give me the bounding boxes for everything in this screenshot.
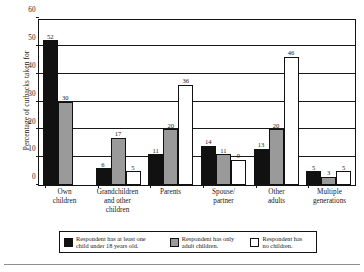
bar[interactable]: 36 [178,85,193,185]
legend-label: Respondent has only adult children. [182,235,234,250]
bar-group: 132046 [250,20,303,185]
legend-item[interactable]: Respondent has only adult children. [170,235,251,250]
bar-group: 112036 [144,20,197,185]
x-axis-label: Own children [38,188,91,214]
y-tick-label: 30 [28,91,35,98]
bottom-rule [4,264,360,265]
y-tick-label: 0 [32,175,36,182]
bar-slot: 36 [178,20,193,185]
gray-swatch [170,238,179,247]
bar-slot: 46 [284,20,299,185]
y-tick-label: 40 [28,63,35,70]
x-axis-label: Grandchildren and other children [91,188,144,214]
bar[interactable]: 6 [96,168,111,185]
bar-slot: 3 [321,20,336,185]
bar-value-label: 30 [62,95,69,102]
bar[interactable]: 5 [336,171,351,185]
bar[interactable]: 5 [306,171,321,185]
plot-area: 0102030405060 52306175112036141191320465… [38,19,356,186]
bar[interactable]: 5 [126,171,141,185]
bars-layer: 5230617511203614119132046535 [39,20,355,185]
bar-group: 14119 [197,20,250,185]
bar-value-label: 5 [342,165,345,172]
bar-slot: 13 [254,20,269,185]
bar[interactable]: 52 [43,40,58,185]
bar[interactable]: 20 [269,129,284,185]
x-axis-label: Parents [144,188,197,214]
legend-item[interactable]: Respondent has at least one child under … [64,235,170,250]
y-tick-label: 10 [28,147,35,154]
bar-slot: 17 [111,20,126,185]
bar-slot: 5 [126,20,141,185]
bar[interactable]: 11 [148,154,163,185]
legend-label: Respondent has at least one child under … [76,235,146,250]
white-swatch [250,238,259,247]
bar-value-label: 3 [327,170,330,177]
x-axis-label: Other adults [250,188,303,214]
bar[interactable]: 46 [284,57,299,185]
bar-value-label: 6 [101,162,104,169]
bar-value-label: 52 [47,34,54,41]
bar-slot [73,20,88,185]
bar-value-label: 46 [288,50,295,57]
bar[interactable]: 20 [163,129,178,185]
bar-value-label: 36 [182,78,189,85]
bar-value-label: 20 [167,123,174,130]
bar-slot: 14 [201,20,216,185]
legend-label: Respondent has no children. [262,235,302,250]
bar[interactable]: 11 [216,154,231,185]
x-axis-label: Spouse/ partner [197,188,250,214]
bar-value-label: 11 [220,148,226,155]
x-axis-labels: Own childrenGrandchildren and other chil… [38,188,356,214]
bar-value-label: 17 [115,131,122,138]
bar-value-label: 9 [237,153,240,160]
bar-group: 5230 [39,20,92,185]
bar-value-label: 14 [205,139,212,146]
bar-slot: 9 [231,20,246,185]
bar[interactable]: 9 [231,160,246,185]
bar-slot: 30 [58,20,73,185]
bar[interactable]: 14 [201,146,216,185]
bar[interactable]: 30 [58,102,73,186]
x-axis-label: Multiple generations [303,188,356,214]
bar-slot: 20 [269,20,284,185]
y-tick-label: 20 [28,119,35,126]
bar-value-label: 5 [312,165,315,172]
bar[interactable]: 3 [321,177,336,185]
bar-value-label: 5 [131,165,134,172]
legend-item[interactable]: Respondent has no children. [250,235,312,250]
black-swatch [64,238,73,247]
bar[interactable]: 17 [111,138,126,185]
bar-chart-figure: Percentage of cutbacks taken for 0102030… [0,0,364,272]
y-tick-label: 60 [28,8,35,15]
bar[interactable]: 13 [254,149,269,185]
bar-slot: 20 [163,20,178,185]
bar-slot: 11 [148,20,163,185]
bar-slot: 5 [336,20,351,185]
bar-value-label: 13 [258,142,265,149]
bar-group: 535 [302,20,355,185]
y-tick-mark [36,17,39,18]
bar-slot: 11 [216,20,231,185]
y-tick-label: 50 [28,36,35,43]
bar-slot: 52 [43,20,58,185]
bar-slot: 6 [96,20,111,185]
bar-value-label: 11 [152,148,158,155]
bar-value-label: 20 [273,123,280,130]
bar-slot: 5 [306,20,321,185]
chart-legend: Respondent has at least one child under … [59,231,317,253]
bar-group: 6175 [92,20,145,185]
